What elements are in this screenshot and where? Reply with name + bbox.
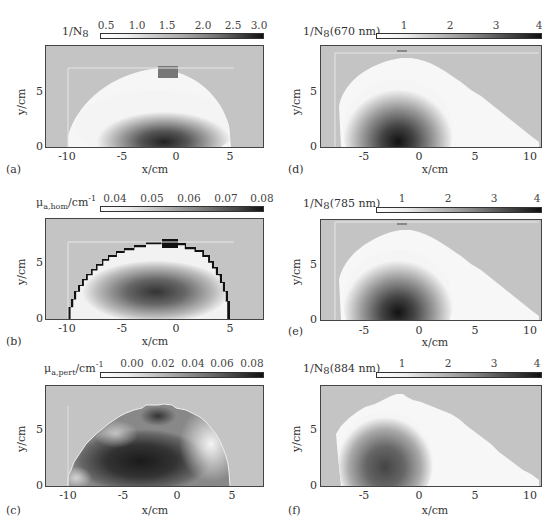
heatmap-c: [45, 385, 264, 487]
y-tick: 5: [310, 85, 317, 98]
colorbar-tick: 2.5: [225, 19, 242, 31]
x-tick: 5: [472, 489, 479, 502]
x-tick: 5: [472, 324, 479, 337]
x-tick: 0: [416, 150, 423, 163]
x-tick: -5: [359, 150, 370, 163]
colorbar-tick: 2.0: [195, 19, 212, 31]
colorbar-tick: 0.02: [151, 357, 174, 369]
colorbar-tick: 4: [536, 19, 543, 31]
y-tick: 5: [36, 85, 43, 98]
colorbar-tick: 0.08: [240, 357, 263, 369]
x-axis-label-e: x/cm: [422, 336, 449, 349]
colorbar-tick: 4: [534, 192, 541, 204]
y-tick: 5: [36, 256, 43, 269]
panel-label-d: (d): [288, 163, 304, 176]
y-tick: 0: [36, 312, 43, 325]
panel-label-f: (f): [288, 504, 301, 517]
heatmap-a: [45, 45, 264, 148]
colorbar-tick: 1.0: [129, 19, 146, 31]
colorbar-tick: 0.00: [120, 357, 143, 369]
colorbar-tick: 2: [445, 357, 452, 369]
colorbar-tick: 0.07: [214, 192, 237, 204]
colorbar-tick: 0.08: [250, 192, 273, 204]
x-tick: 0: [173, 150, 180, 163]
colorbar-tick: 1: [399, 357, 406, 369]
colorbar-title-e: 1/N8(785 nm): [303, 197, 380, 210]
y-tick: 0: [310, 479, 317, 492]
colorbar-tick: 0.5: [98, 19, 115, 31]
colorbar-tick: 3: [491, 192, 498, 204]
x-tick: -10: [58, 150, 76, 163]
colorbar-tick: 1: [399, 192, 406, 204]
heatmap-f: [320, 385, 542, 487]
colorbar-e: [376, 207, 542, 213]
x-tick: 0: [173, 322, 180, 335]
x-tick: -5: [117, 322, 128, 335]
y-axis-label-e: y/cm: [290, 258, 303, 285]
x-tick: 5: [472, 150, 479, 163]
y-tick: 0: [310, 140, 317, 153]
panel-label-e: (e): [288, 325, 303, 338]
colorbar-title-a: 1/N8: [62, 25, 89, 38]
x-axis-label-c: x/cm: [142, 504, 169, 517]
x-tick: -5: [359, 489, 370, 502]
x-tick: 10: [523, 324, 537, 337]
colorbar-tick: 0.04: [103, 192, 126, 204]
colorbar-tick: 0.05: [140, 192, 163, 204]
x-tick: 0: [416, 489, 423, 502]
colorbar-f: [376, 372, 542, 378]
x-tick: 5: [227, 322, 234, 335]
colorbar-tick: 4: [534, 357, 541, 369]
x-axis-label-b: x/cm: [142, 335, 169, 348]
y-axis-label-d: y/cm: [290, 88, 303, 115]
colorbar-title-c: μa,pert/cm-1: [44, 362, 103, 375]
heatmap-d: [320, 45, 542, 148]
x-tick: -5: [359, 324, 370, 337]
y-tick: 0: [310, 313, 317, 326]
y-axis-label-c: y/cm: [15, 425, 28, 452]
x-axis-label-d: x/cm: [422, 163, 449, 176]
x-tick: -5: [118, 489, 129, 502]
x-tick: 10: [523, 150, 537, 163]
colorbar-tick: 1: [401, 19, 408, 31]
x-axis-label-a: x/cm: [142, 163, 169, 176]
panel-label-c: (c): [6, 504, 21, 517]
colorbar-b: [100, 206, 264, 212]
colorbar-tick: 0.04: [181, 357, 204, 369]
colorbar-tick: 0.06: [210, 357, 233, 369]
colorbar-tick: 0.06: [177, 192, 200, 204]
y-axis-label-f: y/cm: [290, 425, 303, 452]
colorbar-tick: 2: [447, 19, 454, 31]
heatmap-e: [320, 219, 542, 321]
colorbar-a: [100, 33, 264, 39]
y-axis-label-a: y/cm: [15, 88, 28, 115]
y-tick: 5: [310, 258, 317, 271]
colorbar-title-f: 1/N8(884 nm): [303, 362, 380, 375]
colorbar-tick: 3: [491, 357, 498, 369]
colorbar-tick: 3: [493, 19, 500, 31]
x-tick: -5: [117, 150, 128, 163]
heatmap-b: [45, 218, 264, 320]
y-tick: 0: [36, 140, 43, 153]
y-tick: 5: [310, 423, 317, 436]
x-tick: -10: [58, 322, 76, 335]
colorbar-tick: 1.5: [159, 19, 176, 31]
panel-label-b: (b): [6, 335, 22, 348]
colorbar-title-d: 1/N8(670 nm): [303, 25, 380, 38]
x-tick: 0: [174, 489, 181, 502]
x-tick: 5: [229, 489, 236, 502]
x-tick: -10: [59, 489, 77, 502]
x-axis-label-f: x/cm: [422, 504, 449, 517]
colorbar-d: [376, 33, 542, 39]
colorbar-title-b: μa,hom/cm-1: [36, 196, 96, 209]
colorbar-c: [100, 372, 264, 378]
y-tick: 0: [36, 479, 43, 492]
y-axis-label-b: y/cm: [15, 258, 28, 285]
colorbar-tick: 2: [445, 192, 452, 204]
x-tick: 5: [227, 150, 234, 163]
colorbar-tick: 3.0: [251, 19, 268, 31]
y-tick: 5: [36, 423, 43, 436]
x-tick: 10: [523, 489, 537, 502]
panel-label-a: (a): [6, 163, 21, 176]
